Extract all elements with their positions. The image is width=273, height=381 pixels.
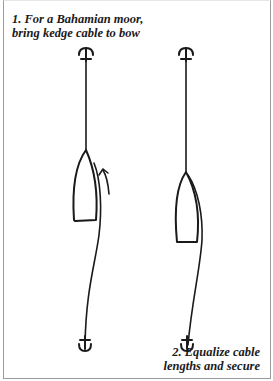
right-figure <box>176 48 202 351</box>
boat-hull <box>73 150 96 221</box>
kedge-cable <box>85 163 101 345</box>
boat-hull <box>176 172 198 242</box>
anchor-top-icon <box>179 48 193 61</box>
moor-diagram <box>0 0 273 381</box>
anchor-top-icon <box>79 48 93 61</box>
anchor-bottom-icon <box>181 336 193 351</box>
left-figure <box>73 48 109 351</box>
anchor-bottom-icon <box>79 336 91 351</box>
